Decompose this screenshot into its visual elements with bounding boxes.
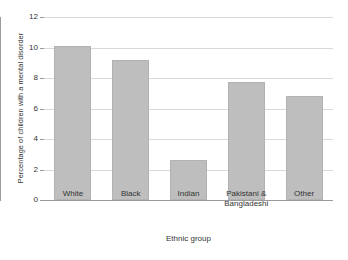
y-tick-label: 2 xyxy=(22,166,38,174)
x-axis-title: Ethnic group xyxy=(44,234,333,244)
tick-mark xyxy=(40,170,44,171)
y-tick-label: 4 xyxy=(22,135,38,143)
tick-mark xyxy=(40,139,44,140)
gridline xyxy=(44,17,333,18)
category-label: Other xyxy=(267,189,341,199)
bar xyxy=(112,60,149,200)
x-axis-line xyxy=(44,200,333,201)
y-tick-label: 6 xyxy=(22,105,38,113)
tick-mark xyxy=(40,17,44,18)
tick-mark xyxy=(40,109,44,110)
y-tick-label: 10 xyxy=(22,44,38,52)
bar xyxy=(228,82,265,200)
category-label-line: Other xyxy=(267,189,341,199)
y-tick-label: 8 xyxy=(22,74,38,82)
category-label-line: Bangladeshi xyxy=(209,199,283,209)
bar xyxy=(286,96,323,200)
y-tick-label: 12 xyxy=(22,13,38,21)
plot-area xyxy=(44,17,333,201)
tick-mark xyxy=(40,48,44,49)
bar-chart: Percentage of children with a mental dis… xyxy=(0,0,348,260)
y-axis-line xyxy=(0,17,1,201)
tick-mark xyxy=(40,78,44,79)
y-axis-tick-labels: 024681012 xyxy=(22,0,38,260)
bar xyxy=(54,46,91,200)
tick-mark xyxy=(40,200,44,201)
